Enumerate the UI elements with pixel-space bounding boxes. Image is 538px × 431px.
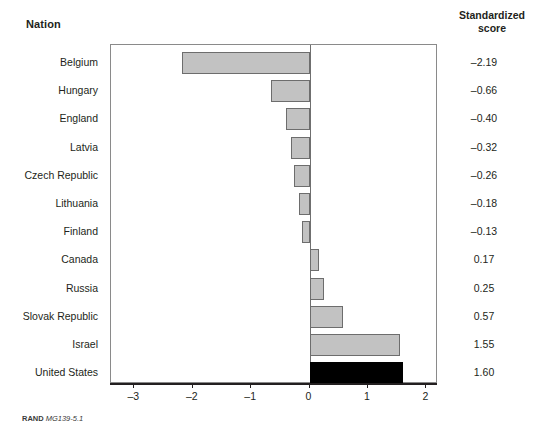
nation-label: Finland [0,217,98,245]
nation-label: Slovak Republic [0,302,98,330]
x-axis-line [110,383,437,385]
bar-row [111,134,436,162]
score-value: –0.18 [452,189,516,217]
x-tick-label: 1 [347,390,387,402]
bar-row [111,77,436,105]
x-tick-label: –3 [113,390,153,402]
nation-label: Belgium [0,48,98,76]
bar[interactable] [310,249,320,271]
x-tick-mark [367,383,368,388]
bar[interactable] [310,362,403,384]
nation-label: Czech Republic [0,161,98,189]
score-value: 0.57 [452,302,516,330]
nation-label: Lithuania [0,189,98,217]
nation-column-header: Nation [26,18,61,30]
x-tick-mark [425,383,426,388]
score-value: 0.17 [452,245,516,273]
x-tick-mark [133,383,134,388]
nation-label: United States [0,358,98,386]
score-header-line2: score [452,22,532,35]
bar-row [111,49,436,77]
x-tick-label: –2 [172,390,212,402]
score-value: –2.19 [452,48,516,76]
score-value: 1.55 [452,330,516,358]
bar-row [111,303,436,331]
bar[interactable] [310,334,401,356]
bar[interactable] [286,108,309,130]
bar-row [111,275,436,303]
figure-footer: RANDMG139-5.1 [22,414,83,423]
x-tick-mark [309,383,310,388]
footer-figure-code: MG139-5.1 [46,414,84,423]
bar-row [111,105,436,133]
score-value: –0.13 [452,217,516,245]
score-header-line1: Standardized [459,9,525,21]
score-value: 0.25 [452,274,516,302]
x-tick-label: 2 [405,390,445,402]
x-axis: –3–2–1012 [110,383,437,413]
x-tick-label: –1 [230,390,270,402]
chart-plot-area [110,44,437,383]
nation-label: Russia [0,274,98,302]
bar-row [111,218,436,246]
bar[interactable] [294,165,309,187]
x-tick-mark [192,383,193,388]
bar[interactable] [291,137,310,159]
nation-label: Canada [0,245,98,273]
footer-source: RAND [22,414,44,423]
bar[interactable] [271,80,310,102]
bar-row [111,331,436,359]
bar[interactable] [299,193,310,215]
x-tick-mark [250,383,251,388]
score-value: –0.32 [452,133,516,161]
score-value: –0.40 [452,104,516,132]
bar-row [111,246,436,274]
nation-label: Hungary [0,76,98,104]
bar-row [111,190,436,218]
score-value: 1.60 [452,358,516,386]
bar[interactable] [310,278,325,300]
score-value: –0.66 [452,76,516,104]
bar-row [111,162,436,190]
nation-label: Israel [0,330,98,358]
score-column-header: Standardized score [452,9,532,35]
score-value: –0.26 [452,161,516,189]
bar[interactable] [310,306,343,328]
nation-label: Latvia [0,133,98,161]
bar[interactable] [182,52,310,74]
nation-label: England [0,104,98,132]
x-tick-label: 0 [289,390,329,402]
bar[interactable] [302,221,310,243]
